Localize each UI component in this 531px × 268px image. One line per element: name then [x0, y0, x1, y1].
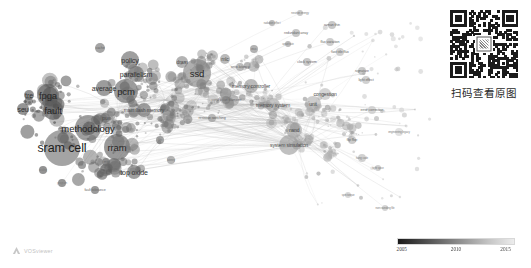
graph-node[interactable]: [39, 97, 43, 101]
graph-node[interactable]: [415, 167, 419, 171]
graph-node[interactable]: [394, 67, 398, 71]
graph-node[interactable]: [326, 38, 334, 46]
graph-node[interactable]: [60, 105, 64, 109]
graph-node[interactable]: [206, 52, 208, 54]
graph-node[interactable]: [95, 127, 100, 132]
graph-node[interactable]: [302, 137, 307, 142]
graph-node[interactable]: [307, 44, 311, 48]
graph-node[interactable]: [315, 105, 317, 107]
graph-node[interactable]: [355, 133, 357, 135]
graph-node[interactable]: [316, 172, 320, 176]
graph-node[interactable]: [318, 96, 323, 101]
graph-node[interactable]: [418, 69, 423, 74]
graph-node[interactable]: [130, 128, 134, 132]
graph-node[interactable]: [244, 59, 246, 61]
graph-node[interactable]: [129, 167, 136, 174]
graph-node[interactable]: [247, 83, 249, 85]
graph-node[interactable]: [136, 135, 138, 137]
graph-node[interactable]: [208, 114, 216, 122]
graph-node[interactable]: [138, 63, 140, 65]
graph-node[interactable]: [222, 89, 228, 95]
graph-node[interactable]: [254, 95, 259, 100]
graph-node[interactable]: [349, 131, 350, 132]
graph-node[interactable]: [159, 109, 161, 111]
graph-node[interactable]: [143, 98, 146, 101]
graph-node[interactable]: [125, 159, 131, 165]
graph-node[interactable]: [232, 82, 234, 84]
graph-node[interactable]: [359, 196, 363, 200]
graph-node[interactable]: [350, 130, 351, 131]
graph-node[interactable]: [129, 151, 131, 153]
graph-node[interactable]: [177, 112, 179, 114]
graph-node[interactable]: [79, 115, 82, 118]
graph-node[interactable]: [371, 39, 375, 43]
graph-node[interactable]: [339, 109, 340, 110]
graph-node[interactable]: [135, 78, 139, 82]
graph-node[interactable]: [134, 67, 141, 74]
graph-node[interactable]: [335, 153, 337, 155]
graph-node[interactable]: [39, 106, 42, 109]
graph-node[interactable]: [103, 169, 105, 171]
graph-node[interactable]: [298, 146, 304, 152]
graph-node[interactable]: [59, 91, 62, 94]
graph-node[interactable]: [366, 108, 368, 110]
graph-node[interactable]: [23, 108, 26, 111]
graph-node[interactable]: [176, 115, 178, 117]
graph-node[interactable]: [197, 106, 199, 108]
graph-node[interactable]: [203, 92, 209, 98]
graph-node[interactable]: [210, 61, 214, 65]
graph-node[interactable]: [382, 178, 384, 180]
graph-node[interactable]: [370, 167, 374, 171]
graph-node[interactable]: [53, 109, 55, 111]
graph-node[interactable]: [58, 179, 66, 187]
graph-node[interactable]: [233, 85, 235, 87]
graph-node[interactable]: [428, 118, 431, 121]
graph-node[interactable]: [20, 125, 34, 139]
graph-node[interactable]: [362, 94, 367, 99]
graph-node[interactable]: [323, 108, 327, 112]
graph-node[interactable]: [248, 93, 253, 98]
graph-node[interactable]: [244, 55, 249, 60]
graph-node[interactable]: [309, 142, 311, 144]
graph-node[interactable]: [332, 146, 333, 147]
graph-node[interactable]: [147, 86, 149, 88]
graph-node[interactable]: [342, 132, 346, 136]
graph-node[interactable]: [317, 203, 319, 205]
graph-node[interactable]: [306, 172, 308, 174]
graph-node[interactable]: [190, 69, 192, 71]
graph-node[interactable]: [180, 62, 183, 65]
graph-node[interactable]: [147, 114, 153, 120]
graph-node[interactable]: [318, 116, 319, 117]
graph-node[interactable]: [67, 92, 71, 96]
graph-node[interactable]: [160, 124, 164, 128]
graph-node[interactable]: [275, 94, 281, 100]
graph-node[interactable]: [144, 122, 146, 124]
graph-node[interactable]: [418, 37, 423, 42]
graph-node[interactable]: [171, 123, 176, 128]
graph-node[interactable]: [95, 43, 105, 53]
graph-node[interactable]: [42, 111, 48, 117]
graph-node[interactable]: [323, 25, 328, 30]
graph-node[interactable]: [173, 77, 180, 84]
graph-node[interactable]: [204, 66, 206, 68]
graph-node[interactable]: [191, 106, 194, 109]
graph-node[interactable]: [45, 109, 47, 111]
graph-node[interactable]: [267, 98, 269, 100]
graph-node[interactable]: [219, 97, 223, 101]
graph-node[interactable]: [202, 75, 205, 78]
graph-node[interactable]: [351, 138, 353, 140]
graph-node[interactable]: [409, 22, 412, 25]
graph-node[interactable]: [305, 134, 308, 137]
graph-node[interactable]: [355, 122, 362, 129]
graph-node[interactable]: [230, 91, 235, 96]
graph-node[interactable]: [88, 135, 96, 143]
graph-node[interactable]: [321, 202, 322, 203]
graph-node[interactable]: [190, 83, 193, 86]
graph-node[interactable]: [374, 56, 375, 57]
graph-node[interactable]: [145, 132, 147, 134]
graph-node[interactable]: [399, 123, 401, 125]
graph-node[interactable]: [239, 94, 245, 100]
graph-node[interactable]: [383, 110, 385, 112]
graph-node[interactable]: [121, 157, 125, 161]
graph-node[interactable]: [113, 121, 116, 124]
